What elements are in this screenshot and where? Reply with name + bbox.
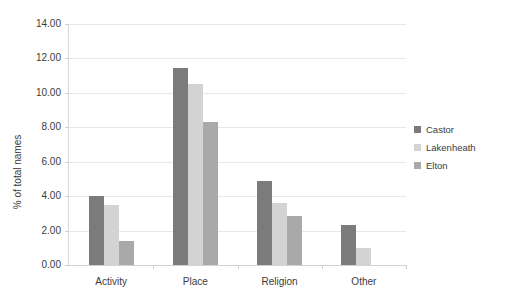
- bar-groups: ActivityPlaceReligionOther: [69, 24, 406, 265]
- bar: [272, 203, 287, 265]
- bar: [173, 68, 188, 265]
- x-group-separator: [153, 265, 154, 269]
- legend: CastorLakenheathElton: [414, 120, 506, 174]
- bar-group: Place: [153, 24, 237, 265]
- legend-label: Castor: [426, 124, 454, 135]
- bar-chart: % of total names 0.002.004.006.008.0010.…: [0, 0, 510, 302]
- legend-swatch: [414, 162, 421, 169]
- bar: [104, 205, 119, 265]
- legend-label: Lakenheath: [426, 142, 476, 153]
- bar-group: Other: [322, 24, 406, 265]
- x-category-label: Other: [322, 275, 406, 289]
- bar: [203, 122, 218, 265]
- y-tick-mark: [65, 265, 69, 266]
- plot-area: 0.002.004.006.008.0010.0012.0014.00 Acti…: [68, 24, 406, 265]
- legend-label: Elton: [426, 160, 448, 171]
- legend-item: Elton: [414, 156, 506, 174]
- bar: [341, 225, 356, 265]
- y-tick-label: 10.00: [5, 86, 61, 100]
- x-group-separator: [322, 265, 323, 269]
- bar: [119, 241, 134, 265]
- bar: [356, 248, 371, 265]
- x-group-separator: [406, 265, 407, 269]
- bar: [188, 84, 203, 265]
- bar-group: Activity: [69, 24, 153, 265]
- y-tick-label: 6.00: [5, 155, 61, 169]
- x-category-label: Activity: [69, 275, 153, 289]
- y-tick-label: 8.00: [5, 120, 61, 134]
- y-tick-label: 14.00: [5, 17, 61, 31]
- bar: [89, 196, 104, 265]
- x-group-separator: [238, 265, 239, 269]
- legend-swatch: [414, 126, 421, 133]
- x-category-label: Place: [153, 275, 237, 289]
- y-tick-label: 2.00: [5, 224, 61, 238]
- bar: [257, 181, 272, 265]
- y-tick-label: 0.00: [5, 258, 61, 272]
- legend-item: Castor: [414, 120, 506, 138]
- y-tick-label: 12.00: [5, 51, 61, 65]
- bar-group: Religion: [238, 24, 322, 265]
- x-category-label: Religion: [238, 275, 322, 289]
- bar: [287, 216, 302, 265]
- legend-item: Lakenheath: [414, 138, 506, 156]
- y-tick-label: 4.00: [5, 189, 61, 203]
- legend-swatch: [414, 144, 421, 151]
